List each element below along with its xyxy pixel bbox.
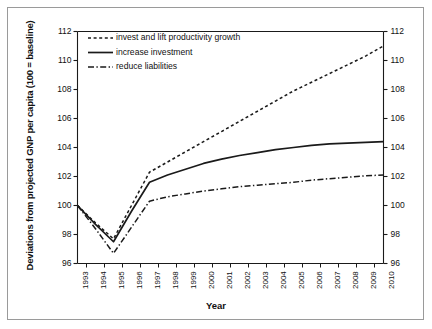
x-axis-tick-label: 2008 [351,271,360,289]
y-axis-tick-label-right: 112 [391,26,419,36]
series-line-0 [78,46,384,239]
x-axis-tick-label: 1993 [81,271,90,289]
y-axis-tick-label-right: 104 [391,142,419,152]
figure-container: Deviations from projected GNP per capita… [0,0,432,329]
y-axis-tick-label: 102 [44,171,72,181]
x-axis-tick-label: 2000 [207,271,216,289]
x-axis-tick-label: 2006 [315,271,324,289]
x-axis-tick-label: 1998 [171,271,180,289]
y-axis-tick-label: 106 [44,113,72,123]
x-axis-tick-label: 1997 [153,271,162,289]
legend-label: increase investment [116,47,192,57]
y-axis-tick-label: 108 [44,84,72,94]
y-axis-tick-label-right: 110 [391,55,419,65]
y-axis-tick-label-right: 98 [391,229,419,239]
x-axis-tick-label: 1995 [117,271,126,289]
y-axis-tick-label: 100 [44,200,72,210]
x-axis-tick-label: 2009 [369,271,378,289]
y-axis-tick-label-right: 100 [391,200,419,210]
x-axis-tick-label: 2003 [261,271,270,289]
y-axis-title: Deviations from projected GNP per capita… [24,21,35,271]
x-axis-title: Year [0,300,432,311]
chart-plot [0,0,432,329]
y-axis-tick-label: 110 [44,55,72,65]
y-axis-tick-label-right: 96 [391,258,419,268]
x-axis-tick-label: 1994 [99,271,108,289]
x-axis-tick-label: 2001 [225,271,234,289]
x-axis-tick-label: 2010 [387,271,396,289]
x-axis-tick-label: 2002 [243,271,252,289]
y-axis-tick-label: 98 [44,229,72,239]
legend-label: reduce liabilities [116,61,177,71]
legend-label: invest and lift productivity growth [116,32,240,42]
x-axis-tick-label: 1999 [189,271,198,289]
y-axis-tick-label-right: 102 [391,171,419,181]
y-axis-tick-label: 112 [44,26,72,36]
series-line-1 [78,142,384,242]
x-axis-tick-label: 2004 [279,271,288,289]
y-axis-tick-label-right: 106 [391,113,419,123]
x-axis-tick-label: 1996 [135,271,144,289]
y-axis-tick-label: 96 [44,258,72,268]
y-axis-tick-label-right: 108 [391,84,419,94]
x-axis-tick-label: 2005 [297,271,306,289]
y-axis-tick-label: 104 [44,142,72,152]
x-axis-tick-label: 2007 [333,271,342,289]
series-line-2 [78,175,384,253]
